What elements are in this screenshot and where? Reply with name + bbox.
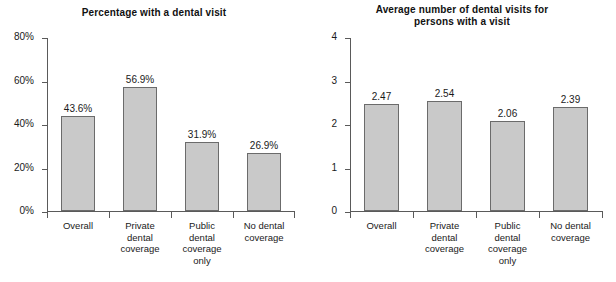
x-category-line: coverage [413, 243, 476, 255]
y-tick-right-3: 3 [345, 82, 350, 83]
x-category-label-left-3: No dental coverage [233, 220, 295, 243]
plot-area-average-visits: 4 3 2 1 0 2.47 2.54 [350, 38, 603, 212]
y-axis-line-left [47, 38, 48, 212]
x-category-label-right-1: Private dental coverage [413, 220, 476, 255]
bar-value-nodental-average: 2.39 [561, 94, 580, 105]
x-category-label-right-3: No dental coverage [539, 220, 602, 243]
y-tick-left-4: 80% [42, 38, 47, 39]
bar-private-percentage: 56.9% [123, 87, 157, 211]
y-tick-label-left-1: 20% [14, 162, 34, 173]
x-category-line: coverage [233, 232, 295, 244]
bar-value-private-percentage: 56.9% [126, 74, 154, 85]
x-category-line: only [476, 255, 539, 267]
y-tick-label-left-2: 40% [14, 118, 34, 129]
x-category-label-left-0: Overall [47, 220, 109, 232]
y-tick-label-right-4: 4 [331, 31, 337, 42]
y-tick-right-1: 1 [345, 169, 350, 170]
y-tick-label-right-0: 0 [331, 205, 337, 216]
x-tick-right-3 [539, 212, 540, 218]
dental-visits-figure: Percentage with a dental visit 80% 60% 4… [0, 0, 616, 282]
x-category-line: No dental [233, 220, 295, 232]
bar-nodental-average: 2.39 [553, 107, 588, 211]
chart-panel-percentage: Percentage with a dental visit 80% 60% 4… [0, 0, 308, 282]
y-tick-left-3: 60% [42, 82, 47, 83]
bar-value-public-average: 2.06 [498, 108, 517, 119]
x-category-line: Private [109, 220, 171, 232]
bar-nodental-percentage: 26.9% [247, 153, 281, 212]
x-category-line: coverage [476, 243, 539, 255]
x-tick-right-1 [413, 212, 414, 218]
y-tick-left-2: 40% [42, 125, 47, 126]
x-category-label-left-2: Public dental coverage only [171, 220, 233, 266]
bar-public-percentage: 31.9% [185, 142, 219, 211]
x-category-line: coverage [539, 232, 602, 244]
bar-value-nodental-percentage: 26.9% [250, 140, 278, 151]
x-tick-left-4 [294, 212, 295, 218]
x-category-line: coverage [109, 243, 171, 255]
x-category-line: Overall [350, 220, 413, 232]
x-category-label-right-0: Overall [350, 220, 413, 232]
x-tick-right-0 [350, 212, 351, 218]
x-tick-right-2 [476, 212, 477, 218]
chart-panel-average-visits: Average number of dental visits for pers… [308, 0, 616, 282]
plot-area-percentage: 80% 60% 40% 20% 0% 43.6% [47, 38, 295, 212]
x-category-line: No dental [539, 220, 602, 232]
x-category-line: coverage [171, 243, 233, 255]
chart-title-percentage: Percentage with a dental visit [0, 7, 308, 19]
y-tick-label-left-4: 80% [14, 31, 34, 42]
x-category-line: Public [476, 220, 539, 232]
x-category-line: dental [413, 232, 476, 244]
x-category-line: only [171, 255, 233, 267]
x-tick-left-0 [47, 212, 48, 218]
bar-public-average: 2.06 [490, 121, 525, 211]
bar-value-public-percentage: 31.9% [188, 129, 216, 140]
bar-value-overall-percentage: 43.6% [64, 103, 92, 114]
y-tick-label-right-2: 2 [331, 118, 337, 129]
x-category-label-left-1: Private dental coverage [109, 220, 171, 255]
x-tick-left-2 [171, 212, 172, 218]
x-tick-left-1 [109, 212, 110, 218]
y-axis-line-right [350, 38, 351, 212]
chart-title-line: persons with a visit [308, 16, 616, 28]
y-tick-label-right-3: 3 [331, 75, 337, 86]
bar-overall-average: 2.47 [364, 104, 399, 211]
bar-private-average: 2.54 [427, 101, 462, 212]
y-tick-label-left-0: 0% [20, 205, 34, 216]
x-category-line: dental [171, 232, 233, 244]
chart-title-line: Average number of dental visits for [308, 4, 616, 16]
y-tick-right-4: 4 [345, 38, 350, 39]
y-tick-label-right-1: 1 [331, 162, 337, 173]
x-category-line: dental [476, 232, 539, 244]
bar-overall-percentage: 43.6% [61, 116, 95, 211]
y-tick-left-1: 20% [42, 169, 47, 170]
bar-value-overall-average: 2.47 [372, 91, 391, 102]
bar-value-private-average: 2.54 [435, 88, 454, 99]
x-category-line: dental [109, 232, 171, 244]
chart-title-average-visits: Average number of dental visits for pers… [308, 4, 616, 28]
y-tick-right-2: 2 [345, 125, 350, 126]
x-category-label-right-2: Public dental coverage only [476, 220, 539, 266]
x-category-line: Public [171, 220, 233, 232]
x-category-line: Private [413, 220, 476, 232]
y-tick-label-left-3: 60% [14, 75, 34, 86]
x-category-line: Overall [47, 220, 109, 232]
x-tick-left-3 [233, 212, 234, 218]
x-tick-right-4 [602, 212, 603, 218]
